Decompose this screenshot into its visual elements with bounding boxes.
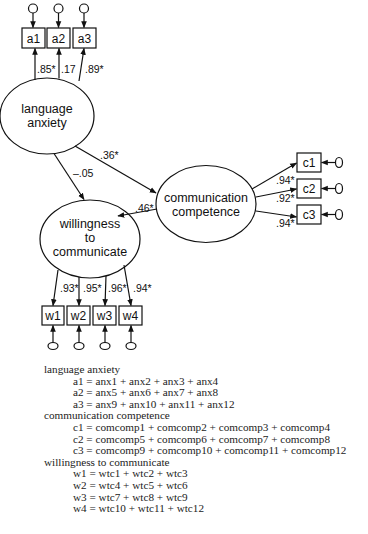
indicator-label-c3: c3 bbox=[303, 208, 316, 222]
loading-value-w3: .96* bbox=[108, 282, 127, 294]
error-term-a2 bbox=[54, 4, 63, 28]
error-term-w4 bbox=[126, 326, 136, 350]
indicator-label-a1: a1 bbox=[27, 32, 41, 46]
loading-value-a3: .89* bbox=[85, 63, 104, 75]
legend-group-willingness-to-communicate: willingness to communicate w1 = wtc1 + w… bbox=[44, 457, 364, 515]
loading-arrow-w1 bbox=[53, 270, 58, 306]
latent-label-la-line2: anxiety bbox=[27, 116, 67, 130]
error-term-w3 bbox=[100, 326, 110, 350]
path-value-cc-to-wtc: .46* bbox=[135, 202, 154, 214]
legend-item: w4 = wtc10 + wtc11 + wtc12 bbox=[44, 503, 364, 515]
legend-group-title: language anxiety bbox=[44, 364, 364, 376]
indicator-label-c1: c1 bbox=[303, 156, 316, 170]
latent-label-wtc-line1: willingness bbox=[59, 217, 120, 231]
latent-label-cc-line1: communication bbox=[164, 191, 248, 205]
error-term-a3 bbox=[80, 4, 89, 28]
legend-item: c3 = comcomp9 + comcomp10 + comcomp11 + … bbox=[44, 445, 364, 457]
loading-value-c3: .94* bbox=[276, 217, 295, 229]
error-term-c1 bbox=[322, 158, 343, 168]
error-term-a1 bbox=[29, 4, 38, 28]
latent-label-wtc-line2: to bbox=[85, 231, 95, 245]
error-term-w1 bbox=[48, 326, 58, 350]
indicator-label-a2: a2 bbox=[52, 32, 66, 46]
legend-item: c1 = comcomp1 + comcomp2 + comcomp3 + co… bbox=[44, 422, 364, 434]
latent-label-cc-line2: competence bbox=[172, 205, 240, 219]
path-value-la-to-cc: .36* bbox=[100, 149, 119, 161]
legend-group-language-anxiety: language anxiety a1 = anx1 + anx2 + anx3… bbox=[44, 364, 364, 410]
loading-value-w2: .95* bbox=[83, 282, 102, 294]
loading-value-a1: .85* bbox=[37, 63, 56, 75]
latent-label-wtc-line3: communicate bbox=[53, 245, 127, 259]
latent-label-la-line1: language bbox=[21, 102, 72, 116]
indicator-label-a3: a3 bbox=[78, 32, 92, 46]
legend-item: w2 = wtc4 + wtc5 + wtc6 bbox=[44, 480, 364, 492]
sem-path-diagram: a1 a2 a3 c1 c2 c3 w1 w2 w3 w4 language a… bbox=[0, 0, 368, 360]
indicator-label-c2: c2 bbox=[303, 182, 316, 196]
error-term-c2 bbox=[322, 184, 343, 194]
error-term-w2 bbox=[74, 326, 84, 350]
indicator-label-w4: w4 bbox=[122, 309, 139, 323]
loading-arrow-a3 bbox=[79, 49, 84, 82]
loading-value-c2: .92* bbox=[276, 192, 295, 204]
loading-value-a2: .17 bbox=[61, 63, 76, 75]
legend-group-communication-competence: communication competence c1 = comcomp1 +… bbox=[44, 410, 364, 456]
error-term-c3 bbox=[322, 210, 343, 220]
loading-value-w4: .94* bbox=[133, 282, 152, 294]
path-value-la-to-wtc: –.05 bbox=[73, 167, 94, 179]
indicator-label-w1: w1 bbox=[44, 309, 61, 323]
loading-value-c1: .94* bbox=[276, 174, 295, 186]
indicator-label-w2: w2 bbox=[70, 309, 87, 323]
indicator-label-w3: w3 bbox=[96, 309, 113, 323]
loading-arrow-w3 bbox=[105, 276, 106, 306]
loading-value-w1: .93* bbox=[60, 282, 79, 294]
indicator-legend: language anxiety a1 = anx1 + anx2 + anx3… bbox=[44, 364, 364, 515]
